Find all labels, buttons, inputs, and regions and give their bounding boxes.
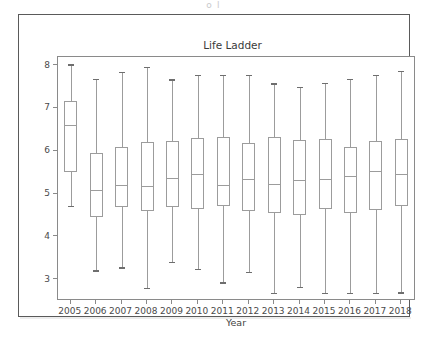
x-tick-mark <box>299 300 300 304</box>
x-tick-mark <box>349 300 350 304</box>
x-tick-label: 2017 <box>363 305 386 317</box>
boxplot-box-2018 <box>58 57 414 299</box>
cap-upper <box>398 71 404 72</box>
x-tick-label: 2012 <box>236 305 259 317</box>
x-tick-mark <box>273 300 274 304</box>
x-axis: 2005200620072008200920102011201220132014… <box>57 300 415 334</box>
y-tick-label: 5 <box>44 187 50 199</box>
x-tick-label: 2007 <box>109 305 132 317</box>
x-tick-label: 2014 <box>287 305 310 317</box>
x-tick-mark <box>197 300 198 304</box>
x-tick-label: 2005 <box>58 305 81 317</box>
x-tick-mark <box>70 300 71 304</box>
x-tick-label: 2015 <box>313 305 336 317</box>
whisker-lower <box>401 206 402 293</box>
x-tick-mark <box>324 300 325 304</box>
iqr-box <box>395 139 408 205</box>
boxplot-series <box>58 57 414 299</box>
y-tick-label: 7 <box>44 101 50 113</box>
y-tick-label: 8 <box>44 59 50 71</box>
x-tick-mark <box>375 300 376 304</box>
figure-frame: Life Ladder 345678 200520062007200820092… <box>18 14 410 317</box>
x-tick-label: 2013 <box>262 305 285 317</box>
x-tick-mark <box>171 300 172 304</box>
x-tick-label: 2018 <box>389 305 412 317</box>
y-axis: 345678 <box>19 15 57 316</box>
x-axis-label: Year <box>57 317 415 328</box>
x-tick-label: 2008 <box>135 305 158 317</box>
x-tick-mark <box>146 300 147 304</box>
x-tick-mark <box>121 300 122 304</box>
plot-area <box>57 56 415 300</box>
x-tick-mark <box>222 300 223 304</box>
y-tick-label: 3 <box>44 273 50 285</box>
x-tick-mark <box>248 300 249 304</box>
cap-lower <box>398 292 404 293</box>
x-tick-mark <box>95 300 96 304</box>
y-tick-label: 4 <box>44 230 50 242</box>
chart-title: Life Ladder <box>19 39 427 51</box>
x-tick-label: 2010 <box>185 305 208 317</box>
median-line <box>395 174 408 175</box>
y-tick-label: 6 <box>44 144 50 156</box>
x-tick-mark <box>400 300 401 304</box>
whisker-upper <box>401 71 402 140</box>
x-tick-label: 2016 <box>338 305 361 317</box>
clipped-caption: o l <box>0 0 427 9</box>
x-tick-label: 2006 <box>84 305 107 317</box>
x-tick-label: 2009 <box>160 305 183 317</box>
x-tick-label: 2011 <box>211 305 234 317</box>
